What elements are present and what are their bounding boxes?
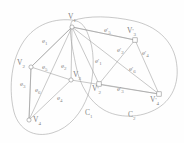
node-label-v1: V1	[68, 13, 76, 23]
edge-label-e6: e6	[35, 87, 41, 95]
edge-label-ep1: e'1	[95, 58, 102, 66]
edge-label-e4: e4	[57, 95, 63, 103]
edge-label-e2: e2	[61, 63, 67, 71]
diagram-canvas: V1 V2 V3 V4 V'3 V'2 V'4 e1 e5 e2 e3 e6 e…	[0, 0, 184, 143]
cluster-c2-outline	[70, 17, 177, 116]
node-vp3[interactable]	[133, 38, 137, 42]
graph-edges	[29, 27, 159, 120]
edge-e6	[29, 67, 31, 120]
edge-ep4	[135, 40, 159, 94]
node-label-v3: V3	[73, 71, 81, 81]
edge-label-ep6: e'6	[129, 66, 136, 74]
node-label-v2: V2	[17, 59, 25, 69]
edge-label-ep2: e'2	[117, 47, 124, 55]
node-label-v4: V4	[33, 116, 41, 126]
edge-label-ep4: e'4	[142, 50, 149, 58]
edge-label-e3: e3	[20, 81, 26, 89]
edge-label-ep5: e'5	[104, 27, 111, 35]
edge-ep6	[72, 27, 159, 94]
cluster-label-c2: C2	[128, 111, 136, 121]
node-v2[interactable]	[29, 65, 33, 69]
node-v4[interactable]	[27, 118, 31, 122]
cluster-label-c1: C1	[85, 109, 93, 119]
node-v1[interactable]	[70, 25, 74, 29]
edge-e2	[71, 27, 72, 80]
node-label-vp4: V'4	[150, 96, 159, 106]
edge-label-e1: e1	[42, 38, 48, 46]
node-label-vp2: V'2	[92, 85, 101, 95]
edge-e5	[31, 27, 72, 67]
edge-label-ep3: e'3	[117, 86, 124, 94]
node-label-vp3: V'3	[127, 27, 136, 37]
edge-v3-vp4	[71, 80, 159, 94]
graph-svg	[0, 0, 184, 143]
edge-label-e5: e5	[42, 64, 48, 72]
